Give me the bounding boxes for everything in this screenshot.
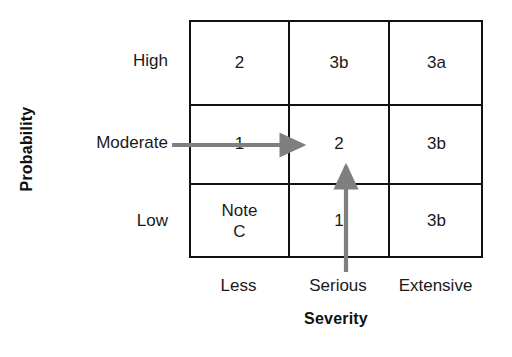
column-label-extensive: Extensive xyxy=(388,277,483,294)
row-label-moderate: Moderate xyxy=(18,134,168,151)
risk-matrix-figure: Probability High Moderate Low 2 3b 3a 1 … xyxy=(0,0,512,357)
matrix-cell-low-less: Note C xyxy=(191,185,290,258)
row-label-high: High xyxy=(18,52,168,69)
column-label-serious: Serious xyxy=(288,277,388,294)
matrix-cell-moderate-serious: 2 xyxy=(290,106,390,185)
risk-matrix-grid: 2 3b 3a 1 2 3b Note C 1 3b xyxy=(189,20,483,258)
matrix-cell-high-extensive: 3a xyxy=(390,22,483,106)
matrix-cell-high-serious: 3b xyxy=(290,22,390,106)
row-label-low: Low xyxy=(18,212,168,229)
x-axis-title: Severity xyxy=(189,310,483,328)
matrix-cell-moderate-less: 1 xyxy=(191,106,290,185)
matrix-cell-low-extensive: 3b xyxy=(390,185,483,258)
matrix-cell-moderate-extensive: 3b xyxy=(390,106,483,185)
matrix-cell-high-less: 2 xyxy=(191,22,290,106)
matrix-cell-low-serious: 1 xyxy=(290,185,390,258)
column-label-less: Less xyxy=(189,277,288,294)
